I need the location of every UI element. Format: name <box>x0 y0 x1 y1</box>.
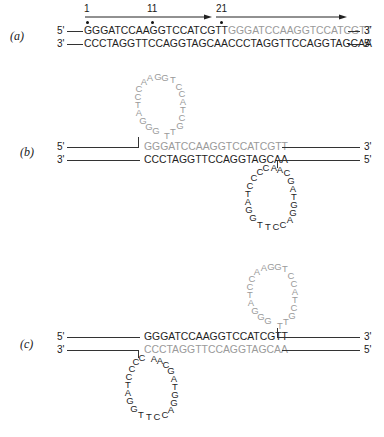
repeat-arrows <box>0 0 384 437</box>
panel-label-b: (b) <box>20 145 34 160</box>
strand-end-5prime: 5' <box>57 141 64 152</box>
strand-line <box>67 147 138 148</box>
strand-end-3prime: 3' <box>364 25 371 36</box>
strand-line <box>67 31 83 32</box>
strand-end-5prime: 5' <box>364 154 371 165</box>
strand-end-5prime: 5' <box>57 331 64 342</box>
strand-end-3prime: 3' <box>57 38 64 49</box>
top-seq-dark: GGGATCCAAGGTCCATCGTT <box>84 25 228 36</box>
strand-line <box>138 137 139 148</box>
strand-end-3prime: 3' <box>364 141 371 152</box>
panel-label-c: (c) <box>20 337 33 352</box>
strand-line <box>282 147 360 148</box>
strand-end-5prime: 5' <box>364 344 371 355</box>
strand-line <box>348 44 360 45</box>
strand-end-3prime: 3' <box>57 154 64 165</box>
strand-end-3prime: 3' <box>57 344 64 355</box>
top-strand-sequence: GGGATCCAAGGTCCATCGTTGGGATCCAAGGTCCATCGTT <box>84 25 372 36</box>
strand-end-3prime: 3' <box>364 331 371 342</box>
top-strand-sequence: GGGATCCAAGGTCCATCGTT <box>144 141 288 152</box>
strand-line <box>277 337 360 338</box>
strand-line <box>67 350 138 351</box>
bottom-strand-sequence: CCCTAGGTTCCAGGTAGCAACCCTAGGTTCCAGGTAGCAA <box>84 38 372 49</box>
bottom-strand-sequence: CCCTAGGTTCCAGGTAGCAA <box>144 344 288 355</box>
strand-line <box>282 350 360 351</box>
bottom-seq-dark: CCCTAGGTTCCAGGTAGCAA <box>84 38 228 49</box>
strand-end-5prime: 5' <box>364 38 371 49</box>
strand-line <box>348 31 360 32</box>
strand-end-5prime: 5' <box>57 25 64 36</box>
top-strand-sequence: GGGATCCAAGGTCCATCGTT <box>144 331 288 342</box>
strand-line <box>277 160 360 161</box>
strand-line <box>67 44 83 45</box>
strand-line <box>67 337 140 338</box>
strand-line <box>67 160 140 161</box>
